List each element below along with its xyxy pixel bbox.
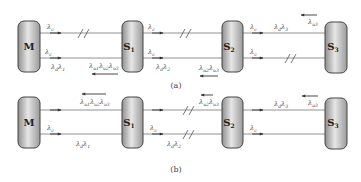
- label-lambda-u2-u3: λu2λu3: [198, 64, 219, 73]
- label-lambda-c: λc: [249, 124, 257, 133]
- label-lambda-c: λc: [46, 124, 54, 133]
- label-lambda-d-lambda-3: λdλ3: [273, 100, 288, 109]
- node-m: M: [18, 97, 40, 148]
- label-lambda-c: λc: [149, 124, 157, 133]
- label-lambda-u1-u2-u3: λu1λu2λu3: [88, 62, 119, 71]
- label-lambda-d-lambda-3: λdλ3: [273, 23, 288, 32]
- label-lambda-c: λc: [44, 48, 52, 57]
- label-lambda-c: λc: [147, 23, 155, 32]
- node-label: M: [23, 117, 34, 128]
- label-lambda-u1-u2-u3: λu1λu2λu3: [79, 98, 110, 107]
- node-s1: S1: [122, 97, 143, 148]
- label-lambda-u3: λu3: [307, 18, 318, 27]
- caption-b: (b): [170, 165, 181, 174]
- label-lambda-d-lambda-2: λdλ2: [155, 63, 170, 72]
- break-mark-icon: [183, 106, 194, 115]
- node-m: M: [18, 21, 40, 72]
- break-mark-icon: [285, 54, 296, 63]
- caption-a: (a): [170, 81, 181, 90]
- node-s3: S3: [325, 22, 347, 73]
- node-s3: S3: [325, 98, 347, 149]
- break-mark-icon: [78, 29, 89, 38]
- label-lambda-c: λc: [249, 23, 257, 32]
- label-lambda-c: λc: [249, 48, 257, 57]
- label-lambda-u3: λu3: [307, 99, 318, 108]
- node-label: M: [23, 41, 34, 52]
- node-s2: S2: [222, 97, 243, 148]
- label-lambda-c: λc: [46, 23, 54, 32]
- label-lambda-c: λc: [147, 48, 155, 57]
- break-mark-icon: [183, 130, 194, 139]
- panel-a: M S1 S2 S3 λc λc λdλ1 λu1λu2λu3 λc λc λd…: [18, 15, 347, 90]
- label-lambda-d-lambda-2: λdλ2: [166, 140, 181, 149]
- optical-network-diagram: M S1 S2 S3 λc λc λdλ1 λu1λu2λu3 λc λc λd…: [0, 0, 361, 182]
- node-s1: S1: [122, 21, 143, 72]
- label-lambda-d-lambda-1: λdλ1: [75, 140, 90, 149]
- label-lambda-d-lambda-1: λdλ1: [50, 63, 65, 72]
- label-lambda-u2-u3: λu2λu3: [198, 98, 219, 107]
- break-mark-icon: [180, 29, 191, 38]
- panel-b: M S1 S2 S3 λu1λu2λu3 λc λdλ1 λc λdλ2 λu2…: [18, 94, 347, 174]
- node-s2: S2: [222, 21, 243, 72]
